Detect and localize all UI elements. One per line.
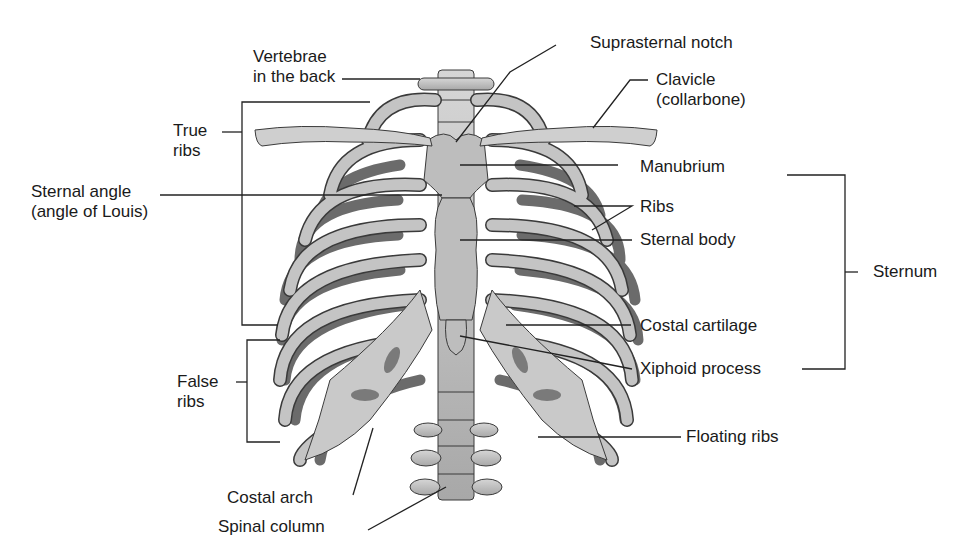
- label-floating-ribs: Floating ribs: [686, 427, 779, 447]
- label-sternal-angle: Sternal angle (angle of Louis): [31, 182, 148, 222]
- label-vertebrae: Vertebrae in the back: [253, 47, 335, 87]
- label-xiphoid-process: Xiphoid process: [640, 359, 761, 379]
- label-sternum: Sternum: [873, 262, 937, 282]
- label-costal-arch: Costal arch: [227, 488, 313, 508]
- ribcage-illustration: [0, 0, 977, 554]
- label-manubrium: Manubrium: [640, 157, 725, 177]
- label-suprasternal-notch: Suprasternal notch: [590, 33, 733, 53]
- manubrium: [424, 134, 488, 198]
- label-ribs: Ribs: [640, 197, 674, 217]
- label-costal-cartilage: Costal cartilage: [640, 316, 757, 336]
- label-clavicle: Clavicle (collarbone): [656, 70, 746, 110]
- leader-lines: [160, 45, 858, 530]
- thoracic-cage-diagram: Vertebrae in the back Suprasternal notch…: [0, 0, 977, 554]
- sternal-body: [435, 198, 478, 320]
- label-sternal-body: Sternal body: [640, 230, 735, 250]
- label-false-ribs: False ribs: [177, 372, 219, 412]
- sternum: [424, 134, 488, 355]
- label-spinal-column: Spinal column: [218, 517, 325, 537]
- label-true-ribs: True ribs: [173, 121, 207, 161]
